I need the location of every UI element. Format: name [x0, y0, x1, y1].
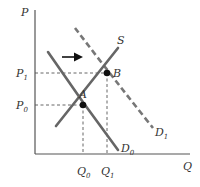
d1-label: D1 [154, 126, 168, 141]
equilibrium-point-a [80, 102, 87, 109]
d0-label: D0 [120, 142, 135, 157]
supply-curve [56, 48, 118, 126]
supply-demand-diagram: P Q P1 P0 Q0 Q1 D1 D0 S A B [0, 0, 200, 187]
q0-label: Q0 [77, 165, 91, 180]
price-axis-label: P [20, 6, 29, 19]
q1-label: Q1 [101, 165, 115, 180]
shift-arrow-icon [74, 53, 83, 62]
equilibrium-point-b [104, 70, 111, 77]
diagram-canvas: P Q P1 P0 Q0 Q1 D1 D0 S A B [0, 0, 200, 187]
p1-label: P1 [15, 67, 28, 82]
supply-label: S [117, 34, 125, 47]
point-a-label: A [78, 88, 87, 101]
p0-label: P0 [15, 99, 28, 114]
quantity-axis-label: Q [183, 160, 192, 173]
point-b-label: B [112, 67, 121, 80]
